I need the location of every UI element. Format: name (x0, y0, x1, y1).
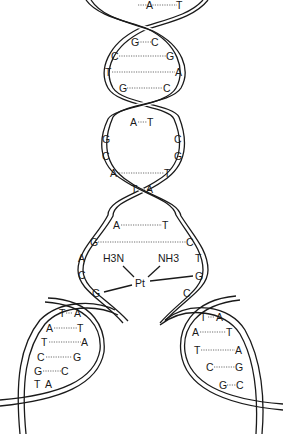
svg-text:C: C (174, 133, 182, 145)
svg-text:A: A (235, 344, 242, 356)
svg-text:T: T (131, 183, 138, 195)
svg-text:A: A (130, 116, 137, 128)
svg-text:G: G (90, 236, 98, 248)
svg-text:C: C (206, 361, 214, 373)
svg-text:T: T (59, 307, 66, 319)
svg-text:C: C (111, 50, 119, 62)
svg-text:G: G (119, 82, 127, 94)
platinum-label: Pt (135, 277, 145, 289)
svg-text:T: T (200, 311, 207, 323)
svg-text:A: A (74, 307, 81, 319)
svg-text:A: A (110, 167, 117, 179)
svg-text:A: A (146, 0, 153, 11)
svg-text:T: T (226, 326, 233, 338)
svg-text:A: A (45, 378, 52, 390)
svg-text:G: G (195, 270, 203, 282)
svg-text:G: G (166, 50, 174, 62)
left-loop-pairs: T A A T T A C G G C T A (34, 307, 88, 390)
svg-text:A: A (216, 311, 223, 323)
svg-text:G: G (235, 361, 243, 373)
svg-text:T: T (34, 378, 41, 390)
svg-text:A: A (146, 183, 153, 195)
ammine-right-label: NH3 (158, 252, 179, 264)
svg-text:G: G (102, 133, 110, 145)
svg-text:C: C (78, 269, 86, 281)
svg-text:C: C (163, 82, 171, 94)
svg-text:T: T (195, 252, 202, 264)
svg-text:A: A (192, 326, 199, 338)
svg-text:C: C (37, 351, 45, 363)
svg-text:G: G (174, 150, 182, 162)
svg-text:T: T (194, 344, 201, 356)
svg-text:A: A (81, 336, 88, 348)
unpaired-bases: A C G T G C (78, 252, 203, 299)
ammine-left-label: H3N (103, 252, 124, 264)
svg-text:A: A (175, 66, 182, 78)
helix-backbone (78, 0, 208, 323)
dna-cisplatin-diagram: A T G C C G T A G C A T G C C G A T T A … (0, 0, 283, 434)
svg-text:G: G (73, 351, 81, 363)
svg-text:C: C (61, 365, 69, 377)
cisplatin-complex: H3N NH3 Pt (103, 252, 193, 292)
svg-text:T: T (105, 66, 112, 78)
svg-text:G: G (92, 287, 100, 299)
svg-text:C: C (186, 236, 194, 248)
svg-text:A: A (113, 219, 120, 231)
svg-text:T: T (164, 167, 171, 179)
svg-text:G: G (34, 365, 42, 377)
svg-text:C: C (102, 150, 110, 162)
svg-text:G: G (219, 379, 227, 391)
svg-text:A: A (78, 252, 85, 264)
svg-text:C: C (151, 36, 159, 48)
svg-text:T: T (147, 116, 154, 128)
svg-text:T: T (162, 219, 169, 231)
svg-text:T: T (176, 0, 183, 11)
svg-text:C: C (183, 287, 191, 299)
svg-text:T: T (77, 322, 84, 334)
svg-text:G: G (131, 36, 139, 48)
svg-text:C: C (236, 379, 244, 391)
svg-text:A: A (46, 322, 53, 334)
svg-text:T: T (41, 336, 48, 348)
